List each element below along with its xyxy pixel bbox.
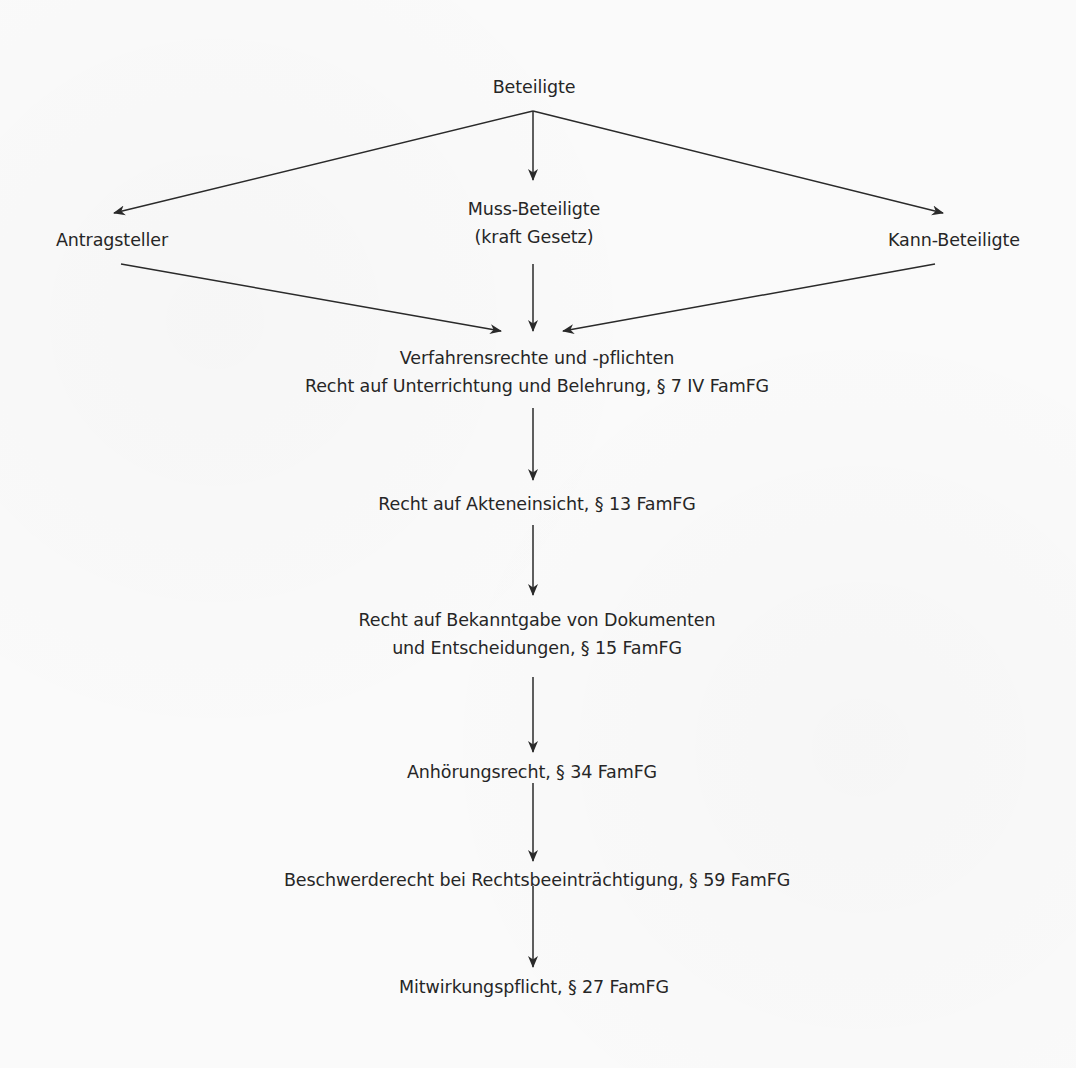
node-bekanntgabe: Recht auf Bekanntgabe von Dokumenten und… [358, 606, 715, 662]
node-beschwerderecht: Beschwerderecht bei Rechtsbeeinträchtigu… [284, 866, 790, 894]
node-label-line-2: und Entscheidungen, § 15 FamFG [358, 634, 715, 662]
diagram-canvas: Beteiligte Antragsteller Muss-Beteiligte… [0, 0, 1076, 1068]
edge-kann-rights [563, 264, 935, 331]
node-akteneinsicht: Recht auf Akteneinsicht, § 13 FamFG [378, 490, 696, 518]
node-label: Mitwirkungspflicht, § 27 FamFG [399, 973, 669, 1001]
node-label: Anhörungsrecht, § 34 FamFG [407, 758, 657, 786]
node-kann-beteiligte: Kann-Beteiligte [888, 226, 1020, 254]
node-label: Kann-Beteiligte [888, 226, 1020, 254]
node-anhoerungsrecht: Anhörungsrecht, § 34 FamFG [407, 758, 657, 786]
edge-antragsteller-rights [121, 264, 501, 331]
node-label-line-1: Recht auf Bekanntgabe von Dokumenten [358, 606, 715, 634]
node-label-line-1: Verfahrensrechte und -pflichten [305, 344, 769, 372]
node-label: Beteiligte [493, 73, 576, 101]
node-label: Recht auf Akteneinsicht, § 13 FamFG [378, 490, 696, 518]
node-label-line-2: Recht auf Unterrichtung und Belehrung, §… [305, 372, 769, 400]
node-label: Beschwerderecht bei Rechtsbeeinträchtigu… [284, 866, 790, 894]
node-label-line-1: Muss-Beteiligte [468, 195, 600, 223]
node-beteiligte: Beteiligte [493, 73, 576, 101]
node-verfahrensrechte: Verfahrensrechte und -pflichten Recht au… [305, 344, 769, 400]
node-antragsteller: Antragsteller [56, 226, 168, 254]
node-label: Antragsteller [56, 226, 168, 254]
connector-layer [0, 0, 1076, 1068]
node-muss-beteiligte: Muss-Beteiligte (kraft Gesetz) [468, 195, 600, 251]
node-mitwirkungspflicht: Mitwirkungspflicht, § 27 FamFG [399, 973, 669, 1001]
node-label-line-2: (kraft Gesetz) [468, 223, 600, 251]
